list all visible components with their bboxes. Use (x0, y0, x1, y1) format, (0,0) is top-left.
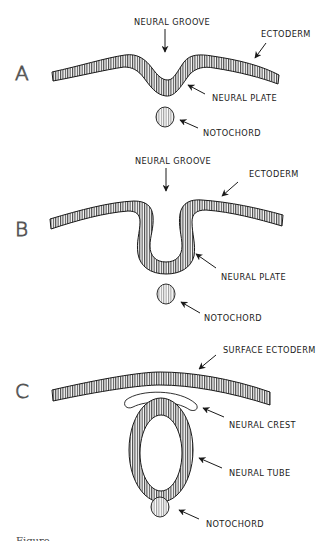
label-neural-groove-b: NEURAL GROOVE (135, 156, 211, 166)
ectoderm-band-b (50, 200, 283, 274)
arrow-ectoderm-a (255, 43, 266, 58)
label-notochord-c: NOTOCHORD (206, 519, 264, 529)
arrow-notochord-b (181, 302, 200, 313)
label-neural-tube: NEURAL TUBE (229, 468, 291, 478)
neural-tube (129, 398, 193, 502)
panel-letter-a: A (15, 61, 29, 85)
panel-letter-b: B (15, 217, 28, 241)
ectoderm-band-a (52, 55, 279, 96)
arrow-notochord-a (180, 120, 198, 128)
neurulation-diagram: A NEURAL GROOVE ECTODERM NEURAL PLATE NO… (0, 0, 326, 541)
panel-a: A NEURAL GROOVE ECTODERM NEURAL PLATE NO… (15, 17, 311, 138)
label-neural-plate-a: NEURAL PLATE (212, 93, 277, 103)
arrow-neural-plate-a (188, 85, 205, 94)
arrow-neural-tube (199, 458, 222, 468)
label-neural-crest: NEURAL CREST (229, 420, 297, 430)
arrow-neural-plate-b (196, 254, 216, 268)
label-notochord-a: NOTOCHORD (203, 128, 261, 138)
figure-caption-cutoff: Figure … (16, 536, 316, 541)
arrow-notochord-c (179, 510, 199, 519)
label-surface-ectoderm: SURFACE ECTODERM (223, 345, 316, 355)
panel-c: C SURFACE ECTODERM NEURAL CREST NEURAL T… (15, 345, 316, 529)
notochord-a (156, 107, 174, 127)
notochord-b (157, 284, 175, 304)
label-neural-groove-a: NEURAL GROOVE (134, 17, 210, 27)
arrow-surface-ectoderm (199, 355, 216, 369)
panel-b: B NEURAL GROOVE ECTODERM NEURAL PLATE NO… (15, 156, 299, 323)
panel-letter-c: C (15, 379, 29, 403)
arrow-neural-crest (203, 408, 224, 417)
arrow-ectoderm-b (222, 182, 238, 196)
label-neural-plate-b: NEURAL PLATE (221, 272, 286, 282)
label-ectoderm-a: ECTODERM (261, 29, 311, 39)
label-ectoderm-b: ECTODERM (249, 169, 299, 179)
label-notochord-b: NOTOCHORD (204, 313, 262, 323)
notochord-c (151, 497, 169, 517)
